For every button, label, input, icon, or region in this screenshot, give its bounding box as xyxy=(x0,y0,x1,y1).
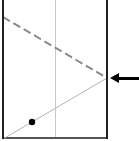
diagram-svg xyxy=(0,0,139,141)
diagram-background xyxy=(0,0,139,141)
diagram-canvas xyxy=(0,0,139,141)
arrow-shaft xyxy=(119,77,139,80)
point-marker-on-solid-ray xyxy=(29,119,35,125)
